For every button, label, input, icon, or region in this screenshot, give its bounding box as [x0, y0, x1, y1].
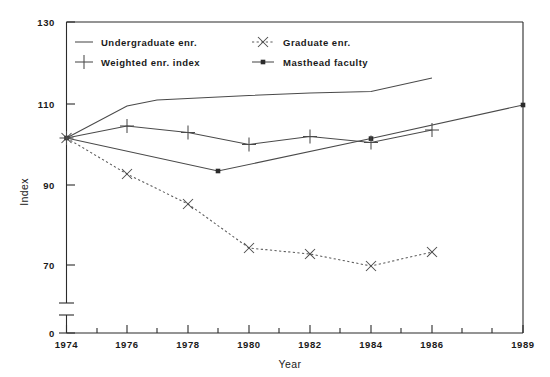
series-undergraduate-enrollment: [67, 78, 433, 138]
y-axis-title: Index: [18, 178, 30, 206]
axis-group: [59, 22, 523, 333]
x-axis-title: Year: [279, 358, 302, 370]
series-line-graduate: [67, 138, 433, 266]
x-tick-label-1978: 1978: [176, 339, 200, 350]
legend-label-weighted: Weighted enr. index: [101, 57, 200, 68]
series-line-undergraduate: [67, 78, 433, 138]
markers-x: [62, 133, 438, 271]
legend-label-masthead: Masthead faculty: [283, 57, 368, 68]
markers-plus: [60, 119, 440, 152]
series-weighted-enrollment-index: [60, 119, 440, 152]
marker-square-1989: [521, 103, 526, 108]
x-tick-label-1974: 1974: [55, 339, 79, 350]
y-tick-label-70: 70: [43, 260, 55, 271]
series-graduate-enrollment: [62, 133, 438, 271]
x-ticks: 1974 1976 1978 1980 1982 1984 1986 1989: [55, 325, 535, 350]
legend: Undergraduate enr. Weighted enr. index G…: [75, 37, 368, 70]
marker-square-1979: [216, 169, 221, 174]
x-tick-label-1976: 1976: [115, 339, 139, 350]
chart-container: 130 110 90 70 0 1974 1976 197: [0, 0, 550, 377]
y-tick-label-130: 130: [37, 17, 55, 28]
line-chart: 130 110 90 70 0 1974 1976 197: [0, 0, 550, 377]
y-tick-label-110: 110: [38, 99, 55, 110]
legend-label-graduate: Graduate enr.: [283, 37, 351, 48]
x-tick-label-1989: 1989: [511, 339, 535, 350]
legend-square-icon-masthead: [261, 60, 266, 65]
x-tick-label-1980: 1980: [237, 339, 261, 350]
y-ticks: 130 110 90 70 0: [37, 17, 75, 339]
legend-label-undergraduate: Undergraduate enr.: [101, 37, 197, 48]
x-tick-label-1984: 1984: [359, 339, 383, 350]
y-tick-label-0: 0: [49, 328, 55, 339]
y-tick-label-90: 90: [43, 180, 55, 191]
x-tick-label-1986: 1986: [420, 339, 444, 350]
x-tick-label-1982: 1982: [298, 339, 322, 350]
